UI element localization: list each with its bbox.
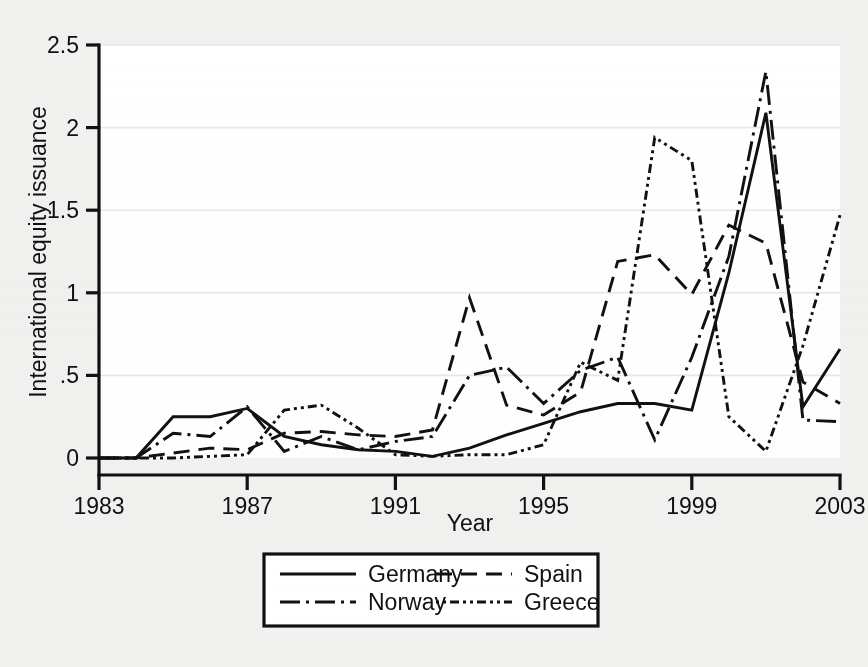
y-tick-label: 0 bbox=[66, 445, 79, 471]
legend-label: Greece bbox=[524, 589, 599, 615]
y-tick-label: .5 bbox=[60, 362, 79, 388]
x-tick-label: 1999 bbox=[666, 493, 717, 519]
legend-label: Norway bbox=[368, 589, 446, 615]
legend-item-greece[interactable]: Greece bbox=[524, 589, 599, 615]
chart-figure: 0.511.522.5 198319871991199519992003 Int… bbox=[0, 0, 868, 667]
x-tick-label: 1995 bbox=[518, 493, 569, 519]
y-tick-label: 2 bbox=[66, 115, 79, 141]
legend-item-norway[interactable]: Norway bbox=[368, 589, 446, 615]
y-tick-label: 2.5 bbox=[47, 32, 79, 58]
legend-label: Spain bbox=[524, 561, 583, 587]
x-tick-label: 2003 bbox=[814, 493, 865, 519]
y-tick-label: 1 bbox=[66, 280, 79, 306]
y-axis-title: International equity issuance bbox=[25, 106, 51, 398]
x-tick-label: 1983 bbox=[73, 493, 124, 519]
x-tick-label: 1987 bbox=[222, 493, 273, 519]
x-tick-label: 1991 bbox=[370, 493, 421, 519]
line-chart: 0.511.522.5 198319871991199519992003 Int… bbox=[0, 0, 868, 667]
legend-item-spain[interactable]: Spain bbox=[524, 561, 583, 587]
chart-legend: GermanySpainNorwayGreece bbox=[264, 554, 599, 626]
x-axis-title: Year bbox=[447, 510, 494, 536]
y-tick-label: 1.5 bbox=[47, 197, 79, 223]
